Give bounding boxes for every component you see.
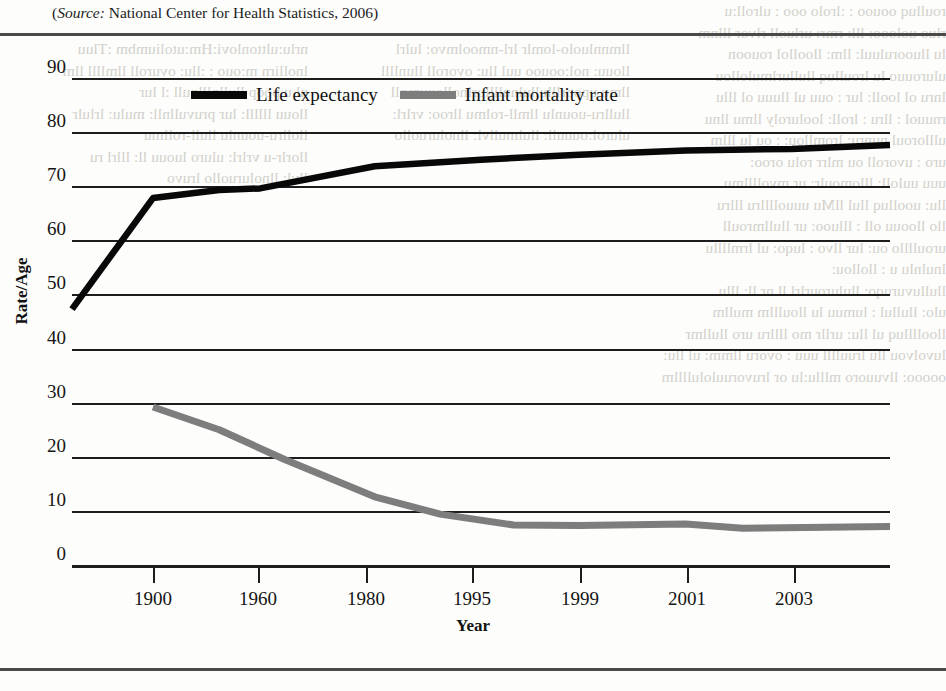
source-caption-label: Source:: [57, 4, 105, 21]
x-axis-tick-label: 1995: [453, 588, 491, 610]
x-axis-tick: [366, 567, 368, 583]
series-line-life-expectancy: [72, 145, 890, 309]
x-axis-tick: [580, 567, 582, 583]
source-caption: (Source: National Center for Health Stat…: [52, 4, 378, 22]
x-axis-tick-label: 1960: [239, 588, 277, 610]
x-axis-tick-label: 2001: [668, 588, 706, 610]
x-axis-tick-label: 2003: [775, 588, 813, 610]
x-axis-tick: [153, 567, 155, 583]
x-axis-tick: [794, 567, 796, 583]
x-axis-tick-label: 1999: [561, 588, 599, 610]
x-axis-tick-label: 1980: [347, 588, 385, 610]
x-axis-tick: [687, 567, 689, 583]
x-axis-tick-label: 1900: [134, 588, 172, 610]
divider-bottom: [0, 668, 946, 671]
chart-figure: 9080706050403020100 Rate/Age Year Life e…: [0, 36, 946, 668]
x-axis-tick: [258, 567, 260, 583]
source-caption-text: National Center for Health Statistics, 2…: [105, 4, 378, 21]
x-axis-tick: [472, 567, 474, 583]
series-line-infant-mortality: [153, 407, 890, 528]
